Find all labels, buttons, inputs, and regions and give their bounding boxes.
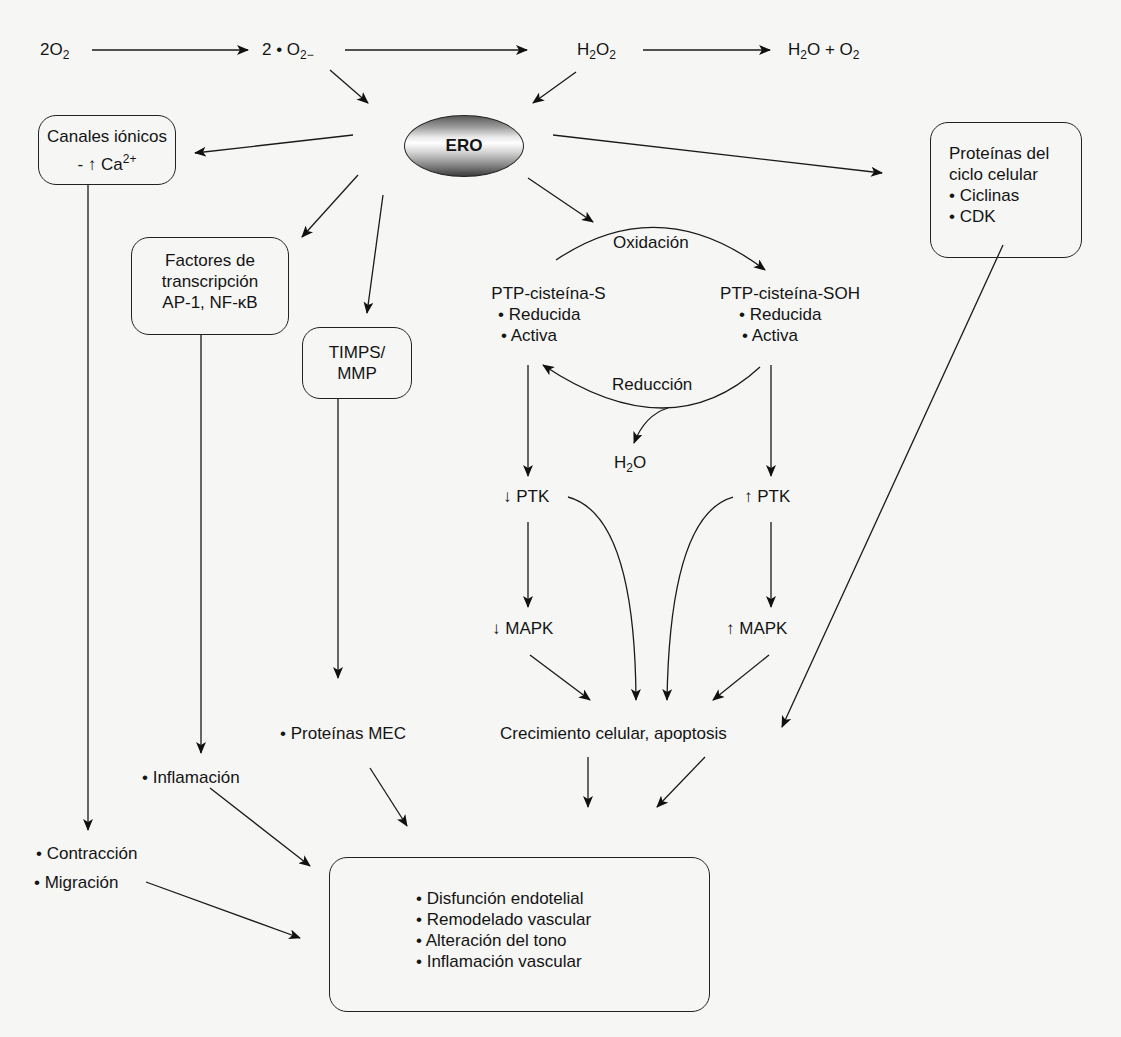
transcription-line3: AP-1, NF-κB: [132, 292, 288, 313]
ion-channels-box: Canales iónicos - ↑ Ca2+: [38, 115, 176, 185]
hydrogen-peroxide-label: H2O2: [577, 39, 616, 66]
water-oxygen-label: H2O + O2: [788, 39, 859, 66]
ion-channels-title: Canales iónicos: [39, 126, 175, 147]
inflammation-label: • Inflamación: [142, 767, 240, 788]
ero-label: ERO: [446, 136, 483, 156]
ptk-increase-label: ↑ PTK: [744, 486, 790, 507]
outcome-item: • Alteración del tono: [416, 930, 709, 951]
outcome-item: • Remodelado vascular: [416, 909, 709, 930]
superoxide-label: 2 • O2−: [262, 39, 314, 66]
calcium-label: - ↑ Ca2+: [39, 149, 175, 175]
contraction-label: • Contracción: [36, 843, 137, 864]
timps-line1: TIMPS/: [303, 342, 411, 363]
reduction-label: Reducción: [612, 374, 692, 395]
oxidation-label: Oxidación: [613, 232, 689, 253]
cell-cycle-line2: ciclo celular: [949, 164, 1081, 185]
mapk-decrease-label: ↓ MAPK: [492, 618, 553, 639]
mec-proteins-label: • Proteínas MEC: [280, 723, 406, 744]
transcription-line2: transcripción: [132, 271, 288, 292]
vascular-outcomes-box: • Disfunción endotelial • Remodelado vas…: [329, 857, 710, 1012]
timps-line2: MMP: [303, 363, 411, 384]
transcription-factors-box: Factores de transcripción AP-1, NF-κB: [131, 237, 289, 335]
mapk-increase-label: ↑ MAPK: [726, 618, 787, 639]
oxidized-ptp-label: PTP-cisteína-SOH • Reducida • Activa: [715, 283, 865, 346]
cell-cycle-line1: Proteínas del: [949, 143, 1081, 164]
migration-label: • Migración: [34, 872, 118, 893]
outcome-item: • Inflamación vascular: [416, 951, 709, 972]
cell-growth-apoptosis-label: Crecimiento celular, apoptosis: [500, 723, 727, 744]
ero-node: ERO: [404, 115, 524, 177]
cell-cycle-proteins-box: Proteínas del ciclo celular • Ciclinas •…: [930, 122, 1082, 258]
cdk-item: • CDK: [949, 206, 1081, 227]
cyclins-item: • Ciclinas: [949, 185, 1081, 206]
outcome-item: • Disfunción endotelial: [416, 888, 709, 909]
reduced-ptp-label: PTP-cisteína-S • Reducida • Activa: [476, 283, 621, 346]
transcription-line1: Factores de: [132, 250, 288, 271]
water-label: H2O: [614, 452, 646, 479]
ros-signaling-diagram: 2O2 2 • O2− H2O2 H2O + O2 ERO Canales ió…: [0, 0, 1121, 1037]
timps-mmp-box: TIMPS/ MMP: [302, 327, 412, 399]
ptk-decrease-label: ↓ PTK: [503, 486, 549, 507]
oxygen-label: 2O2: [40, 39, 69, 66]
